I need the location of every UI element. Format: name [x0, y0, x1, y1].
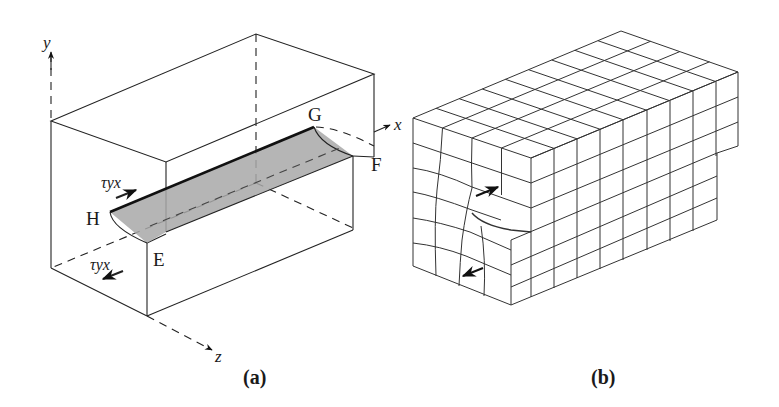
side-grid: [511, 72, 738, 305]
stress-label-top: τyx: [101, 174, 121, 192]
caption-a: (a): [243, 366, 266, 389]
point-f-label: F: [371, 154, 382, 175]
stress-arrow-top: [116, 190, 136, 198]
z-axis: [147, 316, 212, 350]
point-g-label: G: [308, 104, 322, 125]
slip-surface: [110, 127, 353, 243]
z-axis-label: z: [214, 347, 222, 366]
y-axis-label: y: [41, 33, 51, 52]
stress-label-bottom: τyx: [90, 256, 110, 274]
top-grid: [436, 41, 716, 149]
point-h-label: H: [86, 208, 100, 229]
point-e-label: E: [153, 249, 165, 270]
panel-a: [51, 34, 390, 350]
shear-arrow-lower: [463, 268, 483, 276]
front-grid: [413, 118, 531, 305]
x-axis-label: x: [393, 115, 402, 134]
caption-b: (b): [591, 366, 615, 389]
figure-canvas: y x z H E F G τyx τyx (a): [0, 0, 779, 407]
panel-b: [413, 31, 738, 305]
